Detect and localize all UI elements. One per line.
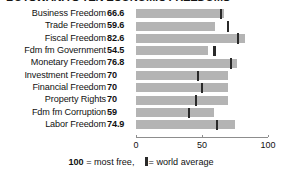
chart-row: Labor Freedom74.9 <box>0 119 282 131</box>
category-value: 74.9 <box>107 119 132 131</box>
category-label: Investment Freedom <box>24 70 106 82</box>
chart-plot-area: Business Freedom66.6Trade Freedom59.6Fis… <box>0 8 282 134</box>
bar-track <box>136 22 268 31</box>
world-average-marker <box>188 108 190 118</box>
bar-track <box>136 108 268 117</box>
category-value: 70 <box>107 82 132 94</box>
world-average-marker <box>195 95 197 105</box>
world-average-marker <box>216 120 218 130</box>
bar-fill <box>136 59 237 68</box>
x-axis-tick-label: 50 <box>197 140 207 150</box>
world-average-marker-icon <box>145 157 147 166</box>
bar-fill <box>136 71 228 80</box>
x-axis-tick <box>202 135 203 138</box>
bar-fill <box>136 46 208 55</box>
bar-fill <box>136 83 228 92</box>
chart-row: Financial Freedom70 <box>0 82 282 94</box>
category-label: Fiscal Freedom <box>45 33 106 45</box>
chart-row: Fiscal Freedom82.6 <box>0 33 282 45</box>
economic-freedoms-bar-chart: BOTSWANA'S TEN ECONOMIC FREEDOMS Busines… <box>0 0 282 176</box>
category-value: 59 <box>107 107 132 119</box>
chart-legend: 100 = most free,= world average <box>0 157 282 168</box>
category-label: Property Rights <box>45 94 106 106</box>
category-label: Fdm fm Corruption <box>32 107 106 119</box>
chart-row: Monetary Freedom76.8 <box>0 57 282 69</box>
bar-fill <box>136 34 245 43</box>
world-average-marker <box>220 9 222 19</box>
x-axis-tick <box>268 135 269 138</box>
world-average-marker <box>237 33 239 43</box>
legend-max-value: 100 <box>68 157 83 167</box>
chart-row: Fdm fm Government54.5 <box>0 45 282 57</box>
bar-fill <box>136 9 224 18</box>
category-value: 54.5 <box>107 45 132 57</box>
chart-row: Property Rights70 <box>0 94 282 106</box>
chart-row: Trade Freedom59.6 <box>0 20 282 32</box>
x-axis-tick <box>136 135 137 138</box>
chart-row: Fdm fm Corruption59 <box>0 107 282 119</box>
x-axis-line: 050100 <box>136 137 268 138</box>
bar-track <box>136 46 268 55</box>
world-average-marker <box>230 58 232 68</box>
legend-max-text: = most free, <box>86 157 134 167</box>
bar-track <box>136 34 268 43</box>
category-label: Fdm fm Government <box>24 45 106 57</box>
world-average-marker <box>213 46 215 56</box>
x-axis-tick-label: 0 <box>133 140 138 150</box>
category-value: 70 <box>107 70 132 82</box>
chart-title: BOTSWANA'S TEN ECONOMIC FREEDOMS <box>6 0 282 1</box>
bar-track <box>136 83 268 92</box>
world-average-marker <box>227 21 229 31</box>
category-label: Business Freedom <box>32 8 106 20</box>
bar-fill <box>136 22 215 31</box>
category-label: Labor Freedom <box>45 119 106 131</box>
bar-track <box>136 9 268 18</box>
category-value: 82.6 <box>107 33 132 45</box>
bar-track <box>136 96 268 105</box>
category-value: 59.6 <box>107 20 132 32</box>
chart-row: Investment Freedom70 <box>0 70 282 82</box>
category-label: Monetary Freedom <box>31 57 106 69</box>
bar-fill <box>136 96 228 105</box>
bar-track <box>136 71 268 80</box>
category-value: 76.8 <box>107 57 132 69</box>
category-label: Trade Freedom <box>45 20 106 32</box>
bar-fill <box>136 108 214 117</box>
category-value: 70 <box>107 94 132 106</box>
legend-marker-text: = world average <box>149 157 214 167</box>
bar-track <box>136 120 268 129</box>
world-average-marker <box>197 71 199 81</box>
x-axis-tick-label: 100 <box>260 140 275 150</box>
bar-track <box>136 59 268 68</box>
chart-row: Business Freedom66.6 <box>0 8 282 20</box>
category-label: Financial Freedom <box>32 82 106 94</box>
category-value: 66.6 <box>107 8 132 20</box>
world-average-marker <box>201 83 203 93</box>
bar-fill <box>136 120 235 129</box>
